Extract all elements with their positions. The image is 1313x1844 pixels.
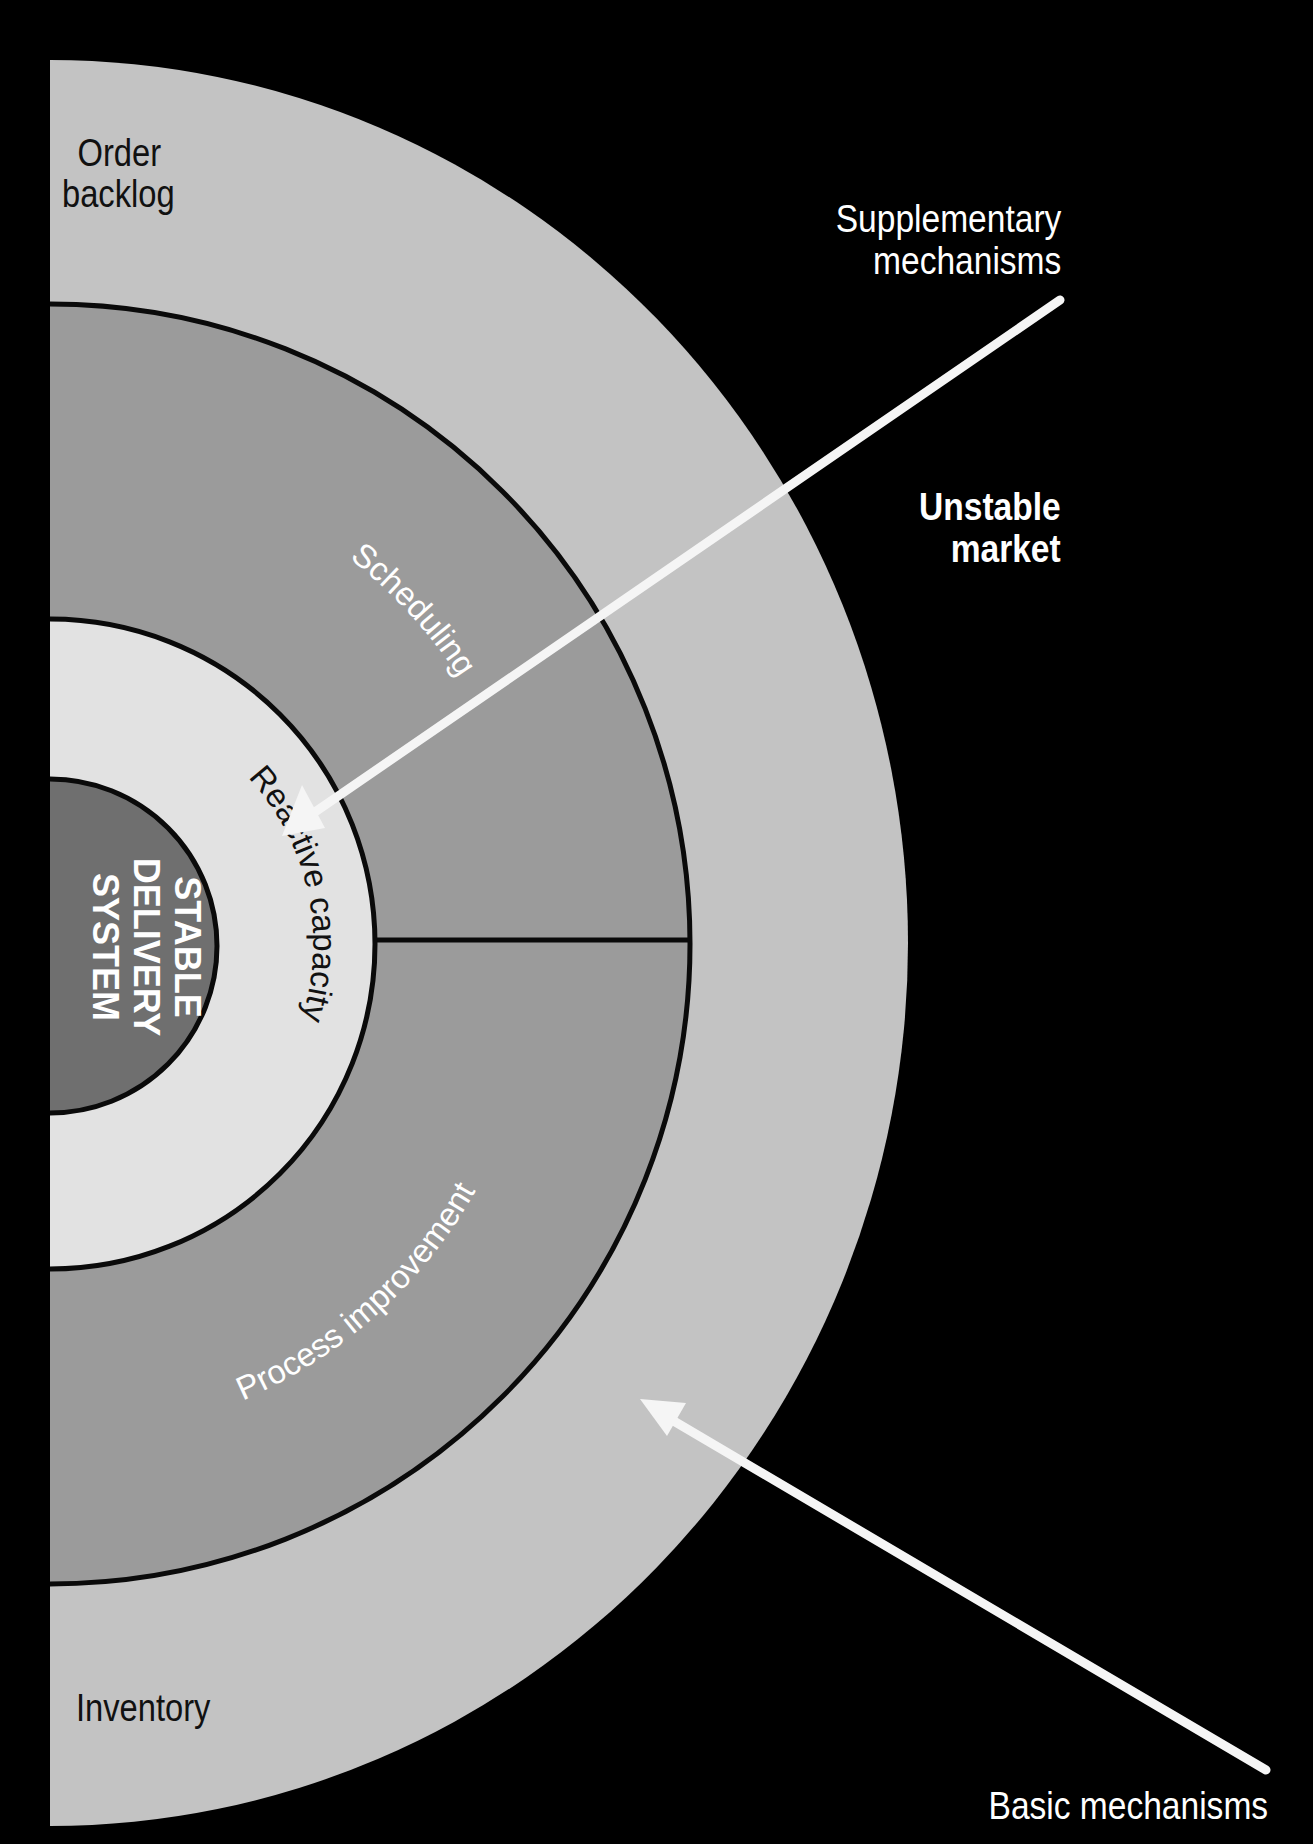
inventory-label: Inventory [76, 1688, 210, 1729]
basic-mechanisms-label: Basic mechanisms [988, 1785, 1268, 1827]
svg-text:STABLE: STABLE [167, 876, 208, 1017]
left-edge-bar [0, 0, 50, 1844]
stable-delivery-system-label: STABLE DELIVERY SYSTEM [85, 858, 208, 1037]
basic-arrow [640, 1399, 1266, 1770]
svg-text:SYSTEM: SYSTEM [85, 873, 126, 1021]
unstable-market-label: Unstable market [919, 486, 1061, 569]
order-backlog-label: Order backlog [62, 133, 175, 214]
mechanisms-diagram: Scheduling Reactive capacity Process imp… [0, 0, 1313, 1844]
supplementary-mechanisms-label: Supplementary mechanisms [835, 198, 1061, 281]
svg-text:DELIVERY: DELIVERY [126, 858, 167, 1037]
